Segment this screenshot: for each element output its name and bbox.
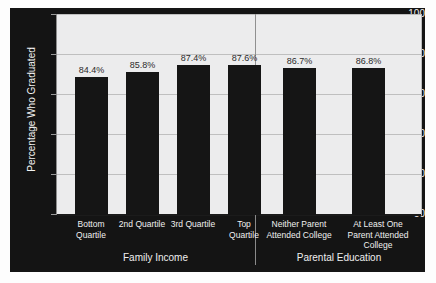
category-label-line2: Parent Attended [348,230,409,240]
bar-value-at-least-one-parent-attended-college: 86.8% [344,57,393,66]
category-label-neither-parent-attended-college: Neither Parent Attended College [260,219,338,240]
category-label-line2: Quartile [229,230,259,240]
bar-value-neither-parent-attended-college: 86.7% [275,57,324,66]
group-title-family-income: Family Income [56,252,255,263]
bar-value-top-quartile: 87.6% [220,54,269,63]
category-label-line1: At Least One [353,219,403,229]
category-label-line1: 2nd Quartile [119,219,165,229]
bar-bottom-quartile[interactable] [75,77,108,215]
gridline-100 [57,14,421,15]
category-label-line2: Quartile [76,230,106,240]
bar-value-3rd-quartile: 87.4% [169,54,218,63]
bar-2nd-quartile[interactable] [126,72,159,215]
category-label-band: Bottom Quartile 2nd Quartile 3rd Quartil… [56,215,422,272]
category-label-line1: Bottom [78,219,105,229]
plot-area: 84.4% 85.8% 87.4% 87.6% 86.7% 86.8% [56,14,422,215]
chart-frame: Percentage Who Graduated 100 90 80 70 60… [10,8,425,272]
bar-at-least-one-parent-attended-college[interactable] [352,68,385,215]
bar-neither-parent-attended-college[interactable] [283,68,316,215]
group-title-parental-education: Parental Education [256,252,422,263]
bar-top-quartile[interactable] [228,65,261,215]
category-label-line1: Neither Parent [272,219,327,229]
category-label-line2: Attended College [266,230,331,240]
category-label-line1: Top [237,219,251,229]
chart-figure: Percentage Who Graduated 100 90 80 70 60… [0,0,436,283]
y-axis-title: Percentage Who Graduated [26,45,37,175]
category-label-line3: College [364,240,393,250]
bar-value-bottom-quartile: 84.4% [67,66,116,75]
bar-3rd-quartile[interactable] [177,65,210,215]
bar-value-2nd-quartile: 85.8% [118,61,167,70]
category-label-line1: 3rd Quartile [171,219,215,229]
category-label-at-least-one-parent-attended-college: At Least One Parent Attended College [339,219,417,251]
